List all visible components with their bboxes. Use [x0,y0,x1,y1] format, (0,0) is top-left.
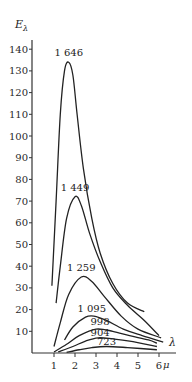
y-tick-label: 100 [9,131,28,142]
x-tick-label: 1 [51,360,57,371]
y-tick-label: 130 [9,65,28,76]
y-tick-label: 40 [15,261,28,272]
y-tick-label: 140 [9,44,28,55]
x-tick-label: 6 [156,360,162,371]
y-tick-label: 60 [15,217,28,228]
y-tick-label: 10 [15,326,28,337]
y-tick-label: 20 [15,304,28,315]
curve-labels: 1 6461 4491 2591 095998904723 [54,47,116,347]
y-tick-label: 90 [15,152,28,163]
curve-label: 1 095 [77,303,106,314]
x-tick-label: 4 [114,360,120,371]
y-tick-label: 110 [9,109,28,120]
x-axis-title: λ [168,336,176,349]
curve-label: 1 259 [67,262,96,273]
y-tick-label: 70 [15,196,28,207]
x-tick-label: 5 [135,360,141,371]
curve-label: 1 449 [61,182,90,193]
x-unit-label: μ [163,359,170,370]
y-tick-label: 80 [15,174,28,185]
curve-label: 1 646 [54,47,83,58]
y-tick-label: 50 [15,239,28,250]
curve-label: 723 [97,336,116,347]
y-tick-label: 30 [15,282,28,293]
x-axis-ticks: 123456μ [51,353,170,371]
curves [52,62,163,352]
x-tick-label: 2 [72,360,78,371]
y-tick-label: 120 [9,87,28,98]
x-tick-label: 3 [93,360,99,371]
chart: 102030405060708090100110120130140 123456… [0,0,192,382]
y-axis-title: Eλ [14,18,28,33]
y-axis-ticks: 102030405060708090100110120130140 [9,44,32,337]
curve-label: 998 [90,316,109,327]
